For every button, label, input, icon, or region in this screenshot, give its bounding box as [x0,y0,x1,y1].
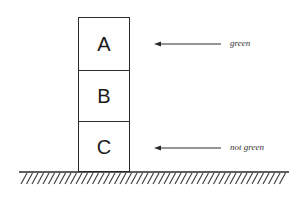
block-a-label: A [97,34,110,54]
annotation-c-text: not green [230,142,264,152]
block-a: A [78,17,130,71]
arrow-left-icon [154,143,224,153]
annotation-a-text: green [230,38,250,48]
hatched-ground-icon [19,171,289,187]
arrow-left-icon [154,39,224,49]
blocks-diagram: A B C green not green [0,0,307,203]
block-b-label: B [97,86,110,106]
block-b: B [78,70,130,122]
block-c-label: C [97,137,111,157]
block-c: C [78,121,130,172]
